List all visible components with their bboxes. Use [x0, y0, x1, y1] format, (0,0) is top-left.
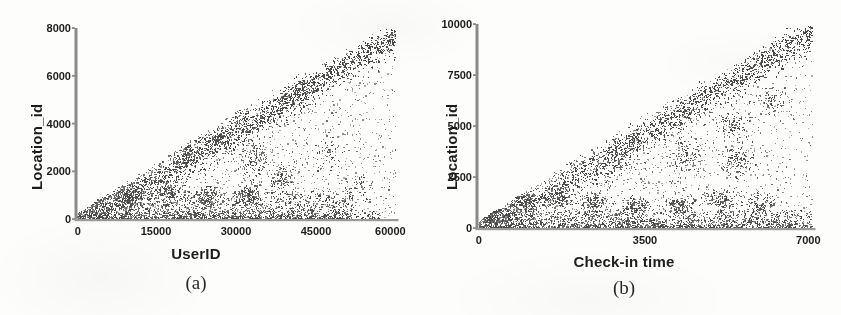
- panel-a-x-tick: 60000: [375, 225, 406, 237]
- panel-b-caption: (b): [613, 277, 635, 299]
- panel-a-y-tick: 0: [65, 213, 71, 225]
- y-tick-mark: [72, 218, 75, 220]
- y-tick-mark: [473, 176, 476, 178]
- panel-b-x-tick: 0: [476, 234, 482, 246]
- scatter-figure: Location_id UserID (a) 02000400060008000…: [0, 0, 841, 315]
- panel-b-y-tick: 0: [466, 222, 472, 234]
- panel-a-x-tick: 15000: [141, 225, 172, 237]
- panel-b-y-tick: 7500: [448, 69, 472, 81]
- y-tick-mark: [473, 74, 476, 76]
- panel-a-x-tick: 45000: [301, 225, 332, 237]
- panel-a-y-tick: 6000: [47, 70, 71, 82]
- y-tick-mark: [72, 75, 75, 77]
- panel-a-plot-area: [0, 0, 420, 315]
- panel-a-y-axis-label: Location_id: [28, 104, 45, 190]
- panel-b-x-axis-label: Check-in time: [574, 253, 675, 270]
- panel-b-y-tick: 5000: [448, 120, 472, 132]
- panel-a: Location_id UserID (a) 02000400060008000…: [0, 0, 420, 315]
- panel-a-x-axis-label: UserID: [171, 245, 221, 262]
- y-tick-mark: [72, 123, 75, 125]
- y-tick-mark: [72, 27, 75, 29]
- panel-a-y-tick: 2000: [47, 165, 71, 177]
- y-tick-mark: [473, 125, 476, 127]
- panel-a-x-tick: 0: [75, 225, 81, 237]
- panel-a-x-tick: 30000: [221, 225, 252, 237]
- panel-a-y-tick: 4000: [47, 118, 71, 130]
- x-axis-line: [75, 219, 399, 221]
- y-tick-mark: [473, 23, 476, 25]
- panel-b-x-tick: 3500: [633, 234, 657, 246]
- x-axis-line: [476, 228, 816, 230]
- panel-b: Location_id Check-in time (b) 0250050007…: [421, 0, 841, 315]
- scatter-points-shade-3: [479, 28, 813, 229]
- panel-b-y-tick: 10000: [441, 18, 472, 30]
- panel-b-y-tick: 2500: [448, 171, 472, 183]
- panel-b-x-tick: 7000: [796, 234, 820, 246]
- y-tick-mark: [473, 227, 476, 229]
- panel-a-caption: (a): [185, 272, 206, 294]
- y-tick-mark: [72, 170, 75, 172]
- panel-a-y-tick: 8000: [47, 22, 71, 34]
